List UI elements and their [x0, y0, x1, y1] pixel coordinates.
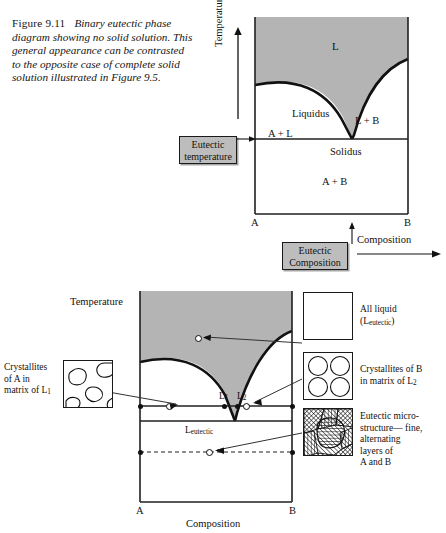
liquid-region-fill [255, 17, 408, 139]
composition-axis-arrow [357, 249, 441, 259]
annotation-crystallites-of-A: Crystallites of A in matrix of L1 [4, 362, 51, 399]
eutectic-composition-line2: Composition [283, 257, 347, 269]
eutectic-temperature-pointer [237, 134, 257, 144]
annotation-eutectic-microstructure: Eutectic micro- structure— fine, alterna… [360, 411, 422, 469]
top-region-L-plus-B: L + B [355, 115, 379, 126]
top-temperature-label: Temperature [213, 0, 224, 47]
eutectic-temperature-callout[interactable]: Eutectic temperature [179, 136, 237, 164]
top-region-A-plus-B: A + B [322, 176, 347, 187]
micrograph-eutectic-microstructure [303, 408, 353, 456]
micrograph-all-liquid [303, 292, 353, 340]
micrograph-crystallites-of-A [63, 360, 113, 408]
figure-number: Figure 9.11 [12, 17, 65, 29]
micrograph-crystallites-of-B [303, 352, 353, 400]
eutectic-temperature-line2: temperature [180, 151, 236, 163]
eutectic-temperature-line1: Eutectic [180, 139, 236, 151]
eutectic-composition-callout[interactable]: Eutectic Composition [282, 242, 348, 270]
annotation-crystallites-of-B: Crystallites of B in matrix of L2 [360, 363, 422, 389]
top-x-label-A: A [251, 217, 259, 228]
figure-caption: Figure 9.11Binary eutectic phase diagram… [12, 17, 194, 85]
top-region-liquidus: Liquidus [292, 108, 329, 119]
eutectic-composition-line1: Eutectic [283, 245, 347, 257]
eutectic-composition-pointer [347, 222, 357, 244]
temperature-axis-arrow [232, 27, 244, 119]
top-region-solidus: Solidus [330, 146, 362, 157]
top-region-A-plus-L: A + L [268, 128, 293, 139]
top-region-L: L [332, 40, 339, 52]
annotation-all-liquid: All liquid (Leutectic) [360, 303, 397, 329]
top-composition-label: Composition [357, 234, 411, 245]
top-x-label-B: B [404, 217, 411, 228]
